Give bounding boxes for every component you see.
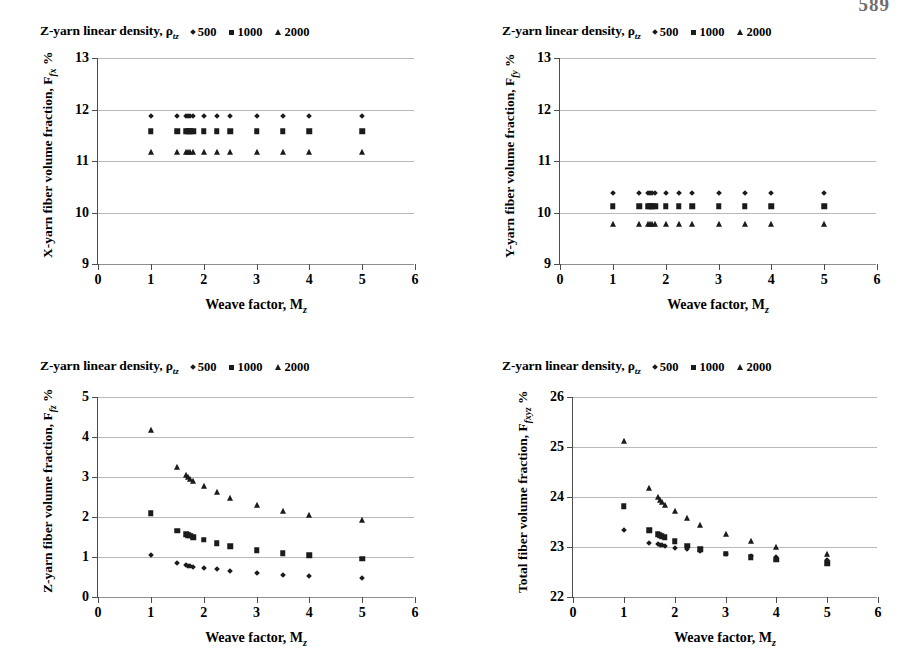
legend-entry-1000[interactable]: 1000 <box>229 25 262 40</box>
data-point <box>636 190 642 196</box>
chart-legend: Z-yarn linear density, ρtz50010002000 <box>40 22 458 42</box>
data-point <box>610 221 616 227</box>
y-tick-mark <box>567 397 573 398</box>
legend-label: 2000 <box>284 25 309 40</box>
legend-entry-2000[interactable]: 2000 <box>275 25 309 40</box>
data-point <box>307 553 313 559</box>
x-tick-label: 1 <box>620 606 627 620</box>
y-tick-label: 9 <box>82 257 89 271</box>
data-point <box>769 204 775 210</box>
legend-title: Z-yarn linear density, ρtz <box>502 358 641 376</box>
y-tick-mark <box>554 110 560 111</box>
x-tick-label: 5 <box>359 606 366 620</box>
y-tick-mark <box>554 161 560 162</box>
y-tick-mark <box>92 161 98 162</box>
x-tick-label: 4 <box>306 606 313 620</box>
data-point <box>227 568 233 574</box>
data-point <box>227 494 233 500</box>
x-tick-label: 5 <box>821 273 828 287</box>
data-point <box>306 149 312 155</box>
x-tick-label: 0 <box>95 273 102 287</box>
data-point <box>254 502 260 508</box>
y-tick-mark <box>554 213 560 214</box>
x-tick-label: 6 <box>874 273 881 287</box>
data-point <box>280 113 286 119</box>
y-tick-label: 10 <box>537 206 551 220</box>
legend-entries: 50010002000 <box>191 25 310 40</box>
data-point <box>824 560 830 566</box>
data-point <box>742 221 748 227</box>
square-marker-icon <box>229 30 234 35</box>
y-gridline <box>560 161 876 162</box>
legend-entry-1000[interactable]: 1000 <box>229 360 262 375</box>
x-tick-mark <box>362 597 363 603</box>
y-tick-label: 23 <box>550 540 564 554</box>
legend-entry-2000[interactable]: 2000 <box>737 360 771 375</box>
data-point <box>716 190 722 196</box>
data-point <box>774 557 780 563</box>
data-point <box>676 204 682 210</box>
y-tick-mark <box>92 397 98 398</box>
x-tick-label: 2 <box>200 606 207 620</box>
plot-area: 0123450123456Weave factor, Mz <box>97 397 414 597</box>
x-tick-mark <box>204 264 205 270</box>
data-point <box>148 510 154 516</box>
legend-entry-500[interactable]: 500 <box>191 25 217 40</box>
x-tick-label: 4 <box>306 273 313 287</box>
square-marker-icon <box>691 30 696 35</box>
y-tick-label: 24 <box>550 490 564 504</box>
data-point <box>227 543 233 549</box>
y-gridline <box>98 477 414 478</box>
data-point <box>748 554 754 560</box>
y-tick-label: 4 <box>82 430 89 444</box>
data-point <box>359 149 365 155</box>
data-point <box>636 221 642 227</box>
legend-entry-1000[interactable]: 1000 <box>691 25 724 40</box>
legend-entry-500[interactable]: 500 <box>653 360 679 375</box>
data-point <box>742 190 748 196</box>
legend-label: 2000 <box>746 25 771 40</box>
legend-entry-2000[interactable]: 2000 <box>737 25 771 40</box>
y-gridline <box>573 397 877 398</box>
x-tick-label: 6 <box>412 606 419 620</box>
data-point <box>652 221 658 227</box>
legend-label: 500 <box>198 25 217 40</box>
data-point <box>768 190 774 196</box>
triangle-marker-icon <box>275 29 281 35</box>
legend-label: 1000 <box>699 25 724 40</box>
data-point <box>254 149 260 155</box>
data-point <box>306 113 312 119</box>
data-point <box>175 528 181 534</box>
y-tick-label: 12 <box>75 103 89 117</box>
data-point <box>773 544 779 550</box>
legend-entries: 50010002000 <box>191 360 310 375</box>
x-tick-label: 2 <box>662 273 669 287</box>
data-point <box>663 204 669 210</box>
data-point <box>716 221 722 227</box>
plot-area: 9101112130123456Weave factor, Mz <box>559 58 876 264</box>
x-tick-mark <box>824 264 825 270</box>
legend-entry-500[interactable]: 500 <box>191 360 217 375</box>
data-point <box>214 541 220 547</box>
legend-title: Z-yarn linear density, ρtz <box>40 23 179 41</box>
x-tick-mark <box>878 597 879 603</box>
data-point <box>689 221 695 227</box>
legend-entry-500[interactable]: 500 <box>653 25 679 40</box>
data-point <box>647 527 653 533</box>
diamond-marker-icon <box>652 29 658 35</box>
x-tick-mark <box>666 264 667 270</box>
y-tick-mark <box>567 497 573 498</box>
y-tick-label: 26 <box>550 390 564 404</box>
x-tick-mark <box>573 597 574 603</box>
data-point <box>824 551 830 557</box>
legend-title: Z-yarn linear density, ρtz <box>40 358 179 376</box>
data-point <box>190 564 196 570</box>
legend-label: 500 <box>660 360 679 375</box>
legend-entry-1000[interactable]: 1000 <box>691 360 724 375</box>
y-gridline <box>573 497 877 498</box>
y-gridline <box>98 213 414 214</box>
data-point <box>227 149 233 155</box>
legend-entry-2000[interactable]: 2000 <box>275 360 309 375</box>
legend-title: Z-yarn linear density, ρtz <box>502 23 641 41</box>
y-tick-mark <box>554 58 560 59</box>
